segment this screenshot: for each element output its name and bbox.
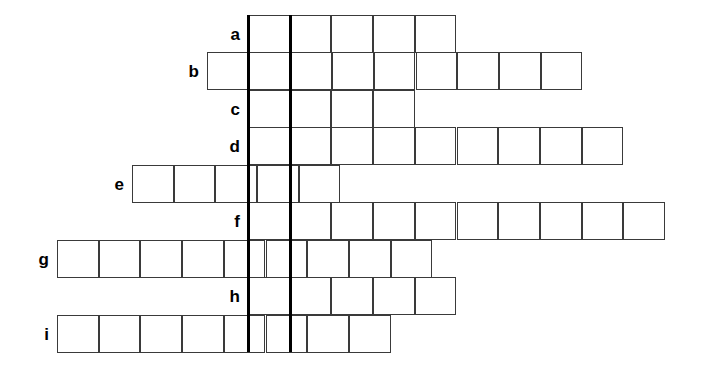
puzzle-cell[interactable]: [224, 240, 266, 278]
puzzle-cell[interactable]: [174, 165, 216, 203]
puzzle-cell[interactable]: [415, 277, 457, 315]
puzzle-cell[interactable]: [541, 52, 583, 90]
puzzle-cell[interactable]: [266, 315, 308, 353]
row-label-b: b: [177, 62, 199, 79]
puzzle-cell[interactable]: [207, 52, 249, 90]
puzzle-cell[interactable]: [540, 202, 582, 240]
puzzle-cell[interactable]: [290, 202, 332, 240]
puzzle-row-a: a: [0, 15, 702, 53]
puzzle-cell[interactable]: [99, 240, 141, 278]
puzzle-cell[interactable]: [373, 15, 415, 53]
puzzle-cell[interactable]: [349, 240, 391, 278]
puzzle-cell[interactable]: [415, 127, 457, 165]
puzzle-cell[interactable]: [224, 315, 266, 353]
puzzle-cell[interactable]: [373, 127, 415, 165]
bold-divider-right: [289, 15, 292, 352]
puzzle-cell[interactable]: [498, 202, 540, 240]
puzzle-cell[interactable]: [257, 165, 299, 203]
puzzle-cell[interactable]: [582, 202, 624, 240]
puzzle-cell[interactable]: [331, 15, 373, 53]
puzzle-cell[interactable]: [290, 127, 332, 165]
puzzle-cell[interactable]: [373, 202, 415, 240]
puzzle-cell[interactable]: [373, 277, 415, 315]
row-label-g: g: [27, 250, 49, 267]
row-label-f: f: [218, 212, 240, 229]
puzzle-row-d: d: [0, 127, 702, 165]
puzzle-cell[interactable]: [249, 52, 291, 90]
puzzle-cell[interactable]: [307, 315, 349, 353]
puzzle-row-f: f: [0, 202, 702, 240]
puzzle-cell[interactable]: [57, 315, 99, 353]
puzzle-row-g: g: [0, 240, 702, 278]
row-label-d: d: [218, 137, 240, 154]
puzzle-cell[interactable]: [415, 15, 457, 53]
puzzle-cell[interactable]: [457, 202, 499, 240]
puzzle-cell[interactable]: [582, 127, 624, 165]
puzzle-cell[interactable]: [374, 52, 416, 90]
puzzle-cell[interactable]: [540, 127, 582, 165]
puzzle-row-h: h: [0, 277, 702, 315]
puzzle-cell[interactable]: [331, 202, 373, 240]
puzzle-cell[interactable]: [457, 127, 499, 165]
puzzle-row-b: b: [0, 52, 702, 90]
puzzle-cell[interactable]: [290, 277, 332, 315]
puzzle-cell[interactable]: [182, 315, 224, 353]
puzzle-grid: abcdefghi: [0, 0, 702, 368]
puzzle-cell[interactable]: [623, 202, 665, 240]
puzzle-cell[interactable]: [248, 202, 290, 240]
row-label-e: e: [102, 175, 124, 192]
puzzle-cell[interactable]: [416, 52, 458, 90]
puzzle-cell[interactable]: [290, 52, 332, 90]
puzzle-cell[interactable]: [248, 127, 290, 165]
puzzle-cell[interactable]: [266, 240, 308, 278]
puzzle-cell[interactable]: [182, 240, 224, 278]
puzzle-cell[interactable]: [99, 315, 141, 353]
puzzle-cell[interactable]: [457, 52, 499, 90]
puzzle-cell[interactable]: [248, 90, 290, 128]
row-label-h: h: [218, 287, 240, 304]
row-label-c: c: [218, 100, 240, 117]
puzzle-cell[interactable]: [415, 202, 457, 240]
row-label-a: a: [218, 25, 240, 42]
puzzle-cell[interactable]: [57, 240, 99, 278]
puzzle-cell[interactable]: [132, 165, 174, 203]
puzzle-row-c: c: [0, 90, 702, 128]
puzzle-cell[interactable]: [299, 165, 341, 203]
puzzle-cell[interactable]: [331, 90, 373, 128]
puzzle-cell[interactable]: [290, 90, 332, 128]
puzzle-cell[interactable]: [215, 165, 257, 203]
puzzle-cell[interactable]: [331, 277, 373, 315]
puzzle-cell[interactable]: [290, 15, 332, 53]
puzzle-cell[interactable]: [307, 240, 349, 278]
puzzle-cell[interactable]: [499, 52, 541, 90]
puzzle-cell[interactable]: [332, 52, 374, 90]
puzzle-cell[interactable]: [248, 15, 290, 53]
puzzle-row-i: i: [0, 315, 702, 353]
puzzle-cell[interactable]: [349, 315, 391, 353]
row-label-i: i: [27, 325, 49, 342]
puzzle-cell[interactable]: [498, 127, 540, 165]
puzzle-cell[interactable]: [331, 127, 373, 165]
puzzle-cell[interactable]: [140, 240, 182, 278]
puzzle-cell[interactable]: [373, 90, 415, 128]
puzzle-cell[interactable]: [391, 240, 433, 278]
puzzle-cell[interactable]: [140, 315, 182, 353]
bold-divider-left: [247, 15, 250, 352]
puzzle-row-e: e: [0, 165, 702, 203]
puzzle-cell[interactable]: [248, 277, 290, 315]
